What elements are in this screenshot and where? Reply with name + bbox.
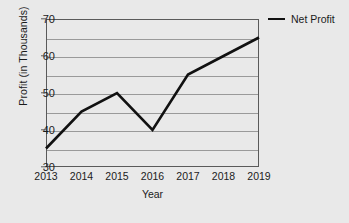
net-profit-line <box>46 38 259 149</box>
x-tick-label: 2015 <box>97 170 137 182</box>
x-tick-label: 2013 <box>26 170 66 182</box>
x-tick-label: 2019 <box>239 170 279 182</box>
x-tick-label: 2016 <box>133 170 173 182</box>
x-tick-label: 2014 <box>62 170 102 182</box>
x-axis-title: Year <box>45 188 260 200</box>
legend-item-label: Net Profit <box>291 13 335 25</box>
line-chart: Profit (in Thousands) 3040506070 2013201… <box>0 0 349 223</box>
data-series-net-profit <box>46 19 259 167</box>
chart-legend: Net Profit <box>268 13 335 25</box>
legend-line-swatch <box>268 18 285 21</box>
x-tick-label: 2017 <box>168 170 208 182</box>
x-tick-label: 2018 <box>204 170 244 182</box>
